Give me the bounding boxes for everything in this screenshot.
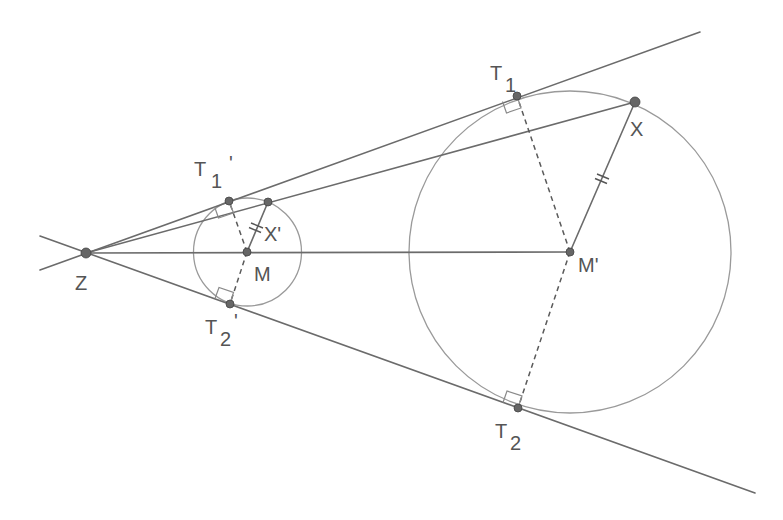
label-t1prime: T 1 ' <box>194 152 233 192</box>
label-xprime: X' <box>264 223 281 245</box>
svg-text:2: 2 <box>510 432 521 454</box>
radius-mprime-t2 <box>518 252 570 408</box>
radius-mprime-t1 <box>517 96 570 252</box>
label-t2prime: T 2 ' <box>205 310 238 350</box>
upper-tangent-line <box>40 32 700 270</box>
svg-text:T: T <box>205 316 217 338</box>
point-t1prime <box>225 197 233 205</box>
svg-text:T: T <box>495 420 507 442</box>
svg-text:1: 1 <box>505 74 516 96</box>
equal-length-ticks-small <box>249 223 263 233</box>
lower-tangent-line <box>40 236 755 493</box>
point-m <box>243 248 251 256</box>
svg-text:1: 1 <box>211 170 222 192</box>
label-mprime: M' <box>578 254 598 276</box>
svg-text:': ' <box>234 310 238 332</box>
svg-text:': ' <box>229 152 233 174</box>
point-z <box>81 248 91 258</box>
center-line <box>86 252 570 253</box>
label-z: Z <box>75 272 87 294</box>
point-xprime <box>264 198 272 206</box>
svg-text:T: T <box>194 158 206 180</box>
secant-line-zx <box>86 102 635 253</box>
label-m: M <box>254 263 271 285</box>
svg-text:2: 2 <box>220 328 231 350</box>
label-x: X <box>630 118 643 140</box>
point-mprime <box>566 248 574 256</box>
point-x <box>630 97 640 107</box>
point-t2 <box>514 404 522 412</box>
label-t1: T 1 <box>490 62 516 96</box>
label-t2: T 2 <box>495 420 521 454</box>
homothety-diagram: Z M M' X' X T 1 ' T 2 ' T 1 T 2 <box>0 0 783 520</box>
point-t2prime <box>226 300 234 308</box>
svg-text:T: T <box>490 62 502 84</box>
